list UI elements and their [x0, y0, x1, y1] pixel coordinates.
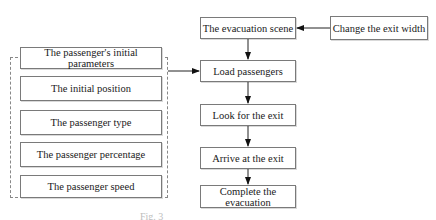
connector-arrows [0, 0, 436, 220]
figure-caption: Fig. 3 [140, 211, 163, 220]
